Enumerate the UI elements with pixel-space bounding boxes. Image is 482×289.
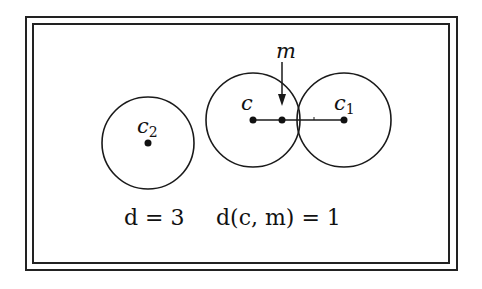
label-c1: c1	[334, 91, 355, 117]
arrow-m-head-icon	[278, 94, 286, 106]
label-m: m	[276, 39, 296, 63]
outer-frame	[26, 17, 457, 270]
equation-d: d = 3	[124, 205, 185, 230]
point-c	[250, 117, 257, 124]
point-c2	[145, 140, 152, 147]
point-m	[279, 117, 286, 124]
diagram-canvas: m c c1 c2 d = 3 d(c, m) = 1	[0, 0, 482, 289]
point-c1	[341, 117, 348, 124]
label-c: c	[241, 91, 253, 115]
equation-d-c-m: d(c, m) = 1	[216, 205, 341, 230]
label-c2: c2	[137, 114, 158, 140]
